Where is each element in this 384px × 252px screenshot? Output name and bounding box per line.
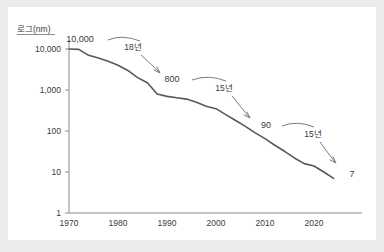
point-label-10000: 10,000 [66, 34, 94, 44]
arrow-shaft-span-1 [141, 55, 159, 72]
span-label-15years-a: 15년 [215, 83, 232, 93]
data-series-line [69, 49, 334, 178]
y-tick-label-1000: 1,000 [40, 85, 62, 95]
leader-span-2 [192, 77, 226, 81]
leader-span-3 [282, 123, 314, 127]
arrow-shaft-span-3 [320, 142, 335, 162]
y-tick-label-10000: 10,000 [35, 44, 61, 54]
point-label-800: 800 [164, 74, 179, 84]
line-chart: 10,000 1,000 100 10 1 로그(nm) 1970 1980 1… [0, 0, 384, 252]
point-label-90: 90 [261, 120, 271, 130]
y-tick-label-100: 100 [47, 126, 61, 136]
x-tick-label-1980: 1980 [109, 218, 128, 228]
arrow-shaft-span-2 [232, 96, 249, 117]
x-tick-label-1970: 1970 [60, 218, 79, 228]
y-axis-title: 로그(nm) [17, 24, 51, 34]
x-tick-label-2000: 2000 [207, 218, 226, 228]
x-tick-label-1990: 1990 [158, 218, 177, 228]
x-tick-label-2020: 2020 [305, 218, 324, 228]
leader-span-1 [108, 37, 140, 41]
y-tick-label-10: 10 [52, 167, 62, 177]
point-label-7: 7 [349, 169, 354, 179]
x-tick-label-2010: 2010 [256, 218, 275, 228]
span-label-15years-b: 15년 [304, 129, 321, 139]
span-label-18years: 18년 [124, 42, 141, 52]
y-tick-label-1: 1 [56, 208, 61, 218]
